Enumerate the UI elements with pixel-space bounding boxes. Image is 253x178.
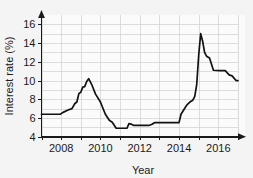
y-tick-label: 12: [23, 56, 35, 68]
y-tick-label: 14: [23, 37, 35, 49]
x-tick-label: 2014: [167, 142, 191, 154]
x-axis-title: Year: [132, 164, 155, 176]
y-axis-title: Interest rate (%): [3, 37, 15, 116]
y-tick-label: 10: [23, 75, 35, 87]
y-tick-label: 4: [29, 131, 35, 143]
chart-canvas: 46810121416 20082010201220142016 Year In…: [0, 0, 253, 178]
x-tick-label: 2016: [206, 142, 230, 154]
y-tick-label: 16: [23, 18, 35, 30]
line-chart: 46810121416 20082010201220142016 Year In…: [0, 0, 253, 178]
x-tick-label: 2008: [49, 142, 73, 154]
x-tick-label: 2010: [88, 142, 112, 154]
x-tick-label: 2012: [128, 142, 152, 154]
y-tick-label: 6: [29, 112, 35, 124]
y-tick-label: 8: [29, 93, 35, 105]
